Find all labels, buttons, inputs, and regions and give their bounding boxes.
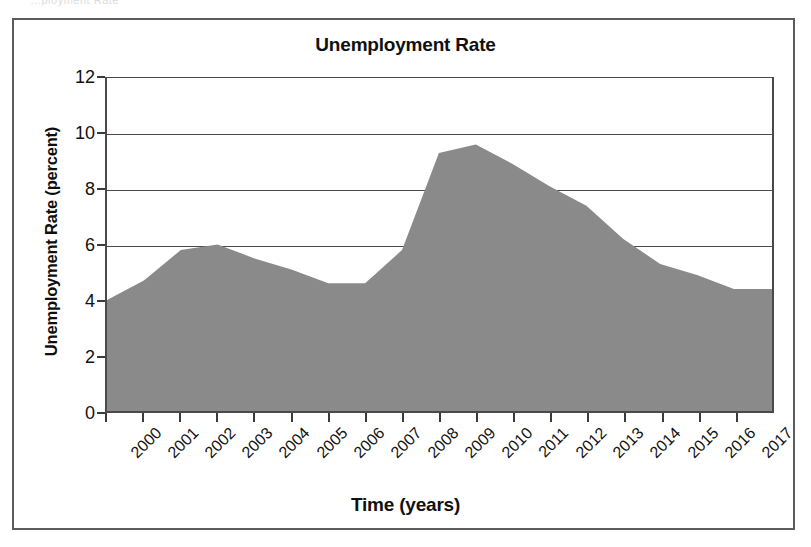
- y-tick-label: 6: [61, 235, 95, 256]
- y-tick-mark: [97, 300, 105, 302]
- x-axis-tick-labels: 2000200120022003200420052006200720082009…: [105, 422, 774, 492]
- x-tick-label: 2015: [684, 424, 722, 462]
- y-axis-title: Unemployment Rate (percent): [42, 77, 61, 407]
- x-tick-label: 2011: [535, 424, 572, 461]
- x-tick-label: 2002: [202, 424, 240, 462]
- x-tick-mark: [736, 413, 738, 422]
- x-tick-mark: [439, 413, 441, 422]
- area-series-unemployment-rate: [107, 78, 772, 411]
- y-tick-mark: [97, 412, 105, 414]
- x-tick-label: 2013: [610, 424, 648, 462]
- y-tick-mark: [97, 188, 105, 190]
- x-tick-mark: [699, 413, 701, 422]
- x-tick-label: 2010: [498, 424, 536, 462]
- chart-figure-frame: Unemployment Rate Unemployment Rate (per…: [12, 18, 795, 530]
- y-tick-label: 12: [61, 67, 95, 88]
- y-tick-mark: [97, 76, 105, 78]
- x-tick-label: 2012: [573, 424, 611, 462]
- x-tick-mark: [624, 413, 626, 422]
- y-tick-label: 10: [61, 123, 95, 144]
- y-tick-label: 0: [61, 403, 95, 424]
- x-tick-label: 2008: [424, 424, 462, 462]
- y-tick-mark: [97, 244, 105, 246]
- y-tick-mark: [97, 356, 105, 358]
- x-tick-label: 2009: [461, 424, 499, 462]
- x-tick-label: 2016: [721, 424, 759, 462]
- y-tick-label: 8: [61, 179, 95, 200]
- x-tick-label: 2007: [387, 424, 425, 462]
- x-tick-label: 2017: [758, 424, 796, 462]
- chart-title: Unemployment Rate: [14, 34, 797, 56]
- x-tick-mark: [402, 413, 404, 422]
- x-tick-label: 2006: [350, 424, 388, 462]
- x-tick-mark: [587, 413, 589, 422]
- x-tick-label: 2004: [276, 424, 314, 462]
- x-tick-label: 2005: [313, 424, 351, 462]
- x-tick-mark: [253, 413, 255, 422]
- y-tick-label: 4: [61, 291, 95, 312]
- x-tick-mark: [291, 413, 293, 422]
- x-tick-label: 2003: [239, 424, 277, 462]
- x-tick-mark: [513, 413, 515, 422]
- x-tick-mark: [179, 413, 181, 422]
- x-axis-tick-marks: [105, 413, 774, 422]
- y-tick-label: 2: [61, 347, 95, 368]
- x-tick-mark: [328, 413, 330, 422]
- y-axis-tick-labels: 024681012: [59, 77, 95, 413]
- x-tick-label: 2000: [127, 424, 165, 462]
- x-tick-mark: [662, 413, 664, 422]
- x-tick-label: 2001: [165, 424, 203, 462]
- x-tick-mark: [105, 413, 107, 422]
- scan-ghost-text: …ployment Rate: [30, 0, 250, 6]
- x-tick-label: 2014: [647, 424, 685, 462]
- y-tick-mark: [97, 132, 105, 134]
- x-tick-mark: [550, 413, 552, 422]
- y-axis-tick-marks: [97, 77, 105, 413]
- area-polygon: [107, 145, 772, 411]
- plot-area: [105, 77, 774, 413]
- x-axis-title: Time (years): [14, 494, 797, 516]
- x-tick-mark: [216, 413, 218, 422]
- x-tick-mark: [476, 413, 478, 422]
- x-tick-mark: [365, 413, 367, 422]
- x-tick-mark: [142, 413, 144, 422]
